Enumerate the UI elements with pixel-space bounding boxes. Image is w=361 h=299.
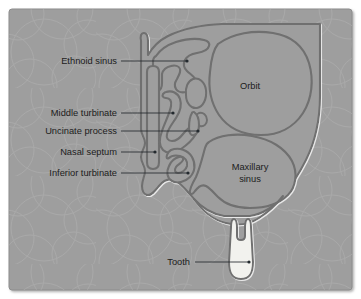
leader-dot-nasal-septum [153, 150, 156, 153]
label-middle-turbinate: Middle turbinate [51, 108, 117, 118]
label-ethmoid-sinus: Ethnoid sinus [61, 56, 117, 66]
label-orbit: Orbit [240, 81, 261, 91]
orbit-outline [209, 32, 311, 135]
anatomy-figure: Ethnoid sinus Middle turbinate Uncinate … [0, 0, 361, 299]
leader-dot-ethmoid-sinus [185, 59, 188, 62]
anatomy-diagram-svg: Ethnoid sinus Middle turbinate Uncinate … [0, 0, 361, 299]
leader-dot-middle-turbinate [171, 111, 174, 114]
leader-dot-uncinate-process [196, 129, 199, 132]
leader-dot-inferior-turbinate [186, 171, 189, 174]
label-tooth: Tooth [167, 257, 190, 267]
leader-dot-tooth [247, 260, 250, 263]
label-maxillary-sinus-line2: sinus [239, 174, 261, 184]
label-nasal-septum: Nasal septum [60, 147, 117, 157]
label-inferior-turbinate: Inferior turbinate [49, 168, 117, 178]
label-uncinate-process: Uncinate process [45, 126, 117, 136]
label-maxillary-sinus-line1: Maxillary [232, 162, 269, 172]
nasal-septum-outline [147, 66, 159, 169]
ethmoid-air-cell [186, 79, 206, 109]
